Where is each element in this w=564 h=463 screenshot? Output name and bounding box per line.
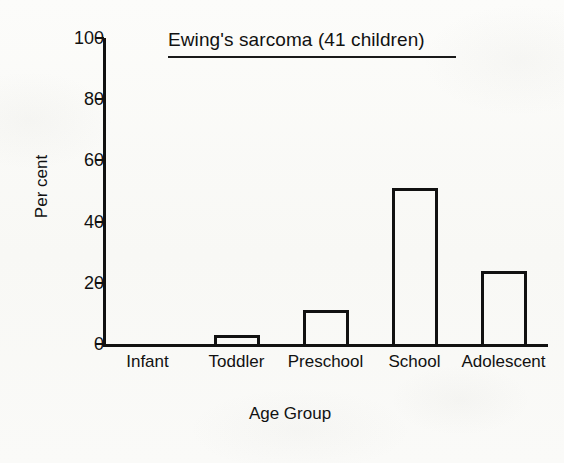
y-axis-tick-label-wrap: 100 xyxy=(40,29,104,47)
y-axis-tick-label: 20 xyxy=(60,274,104,292)
y-axis-tick-label-wrap: 0 xyxy=(40,335,104,353)
title-underline xyxy=(168,56,456,58)
y-axis-tick-label: 0 xyxy=(60,335,104,353)
bar xyxy=(392,188,438,344)
y-axis-tick-label: 40 xyxy=(60,213,104,231)
x-axis-line xyxy=(103,344,548,347)
chart-title: Ewing's sarcoma (41 children) xyxy=(168,28,468,51)
bar xyxy=(303,310,349,344)
x-axis-tick-label: Adolescent xyxy=(434,352,564,372)
y-axis-tick-label: 100 xyxy=(60,29,104,47)
y-axis-tick-label: 60 xyxy=(60,151,104,169)
y-axis-tick-label: 80 xyxy=(60,90,104,108)
bar-chart: Ewing's sarcoma (41 children) 0204060801… xyxy=(0,0,564,463)
bar xyxy=(481,271,527,344)
y-axis-tick-label-wrap: 80 xyxy=(40,90,104,108)
bar xyxy=(214,335,260,344)
y-axis-line xyxy=(103,38,106,346)
x-axis-title: Age Group xyxy=(180,404,400,424)
y-axis-tick-label-wrap: 20 xyxy=(40,274,104,292)
y-axis-title: Per cent xyxy=(33,132,50,242)
